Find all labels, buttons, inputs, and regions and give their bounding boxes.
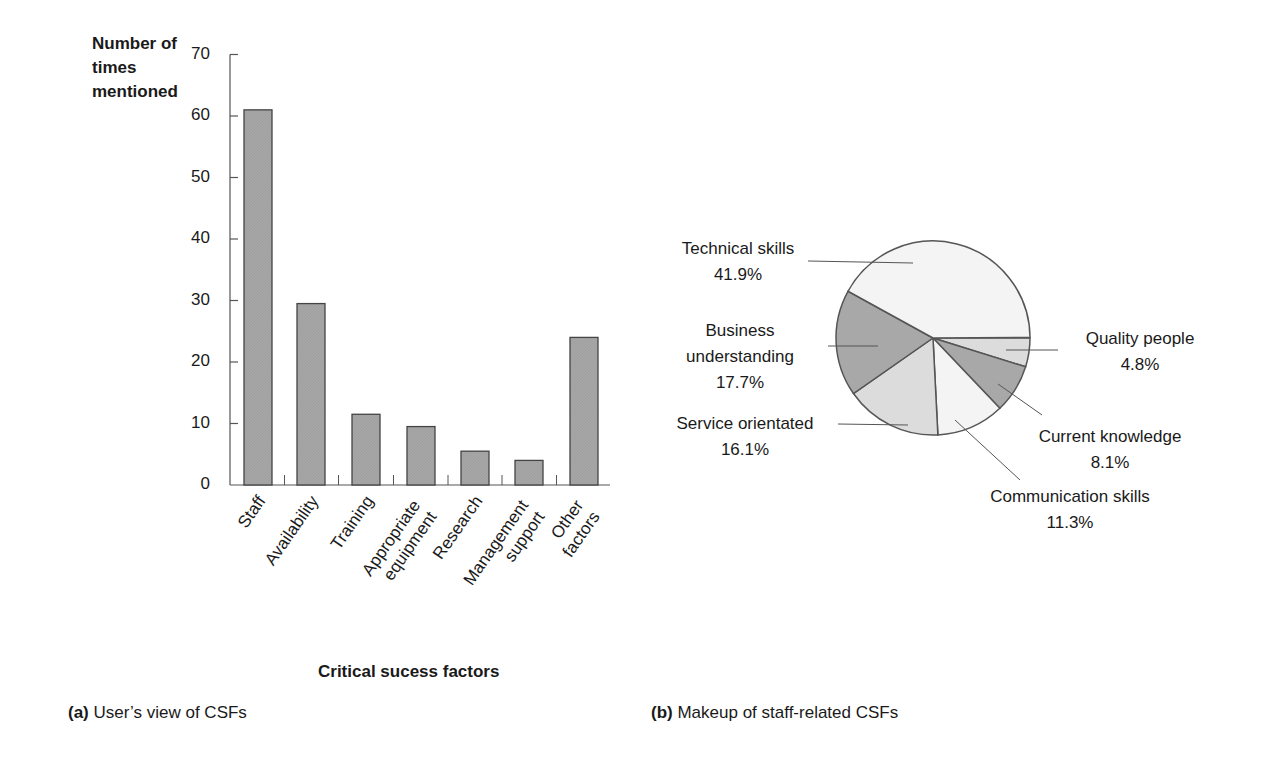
y-tick-label: 60 (170, 105, 210, 125)
pie-label-technical-skills: Technical skills 41.9% (648, 236, 828, 288)
caption-a: (a) User’s view of CSFs (68, 703, 247, 723)
bar-availability (297, 304, 325, 485)
bar-appropriate-equipment (407, 427, 435, 485)
pie-label-quality-people: Quality people 4.8% (1050, 326, 1230, 378)
bar-training (352, 414, 380, 485)
label-name: Communication skills (960, 484, 1180, 510)
label-pct: 41.9% (648, 262, 828, 288)
label-name-2: understanding (650, 344, 830, 370)
bar-research (461, 451, 489, 485)
pie-label-business-understanding: Business understanding 17.7% (650, 318, 830, 396)
y-tick-label: 20 (170, 351, 210, 371)
bar-other-factors (570, 337, 598, 485)
pie-label-service-orientated: Service orientated 16.1% (645, 411, 845, 463)
pie-label-communication-skills: Communication skills 11.3% (960, 484, 1180, 536)
label-pct: 17.7% (650, 370, 830, 396)
y-tick-label: 10 (170, 413, 210, 433)
bar-staff (244, 110, 272, 485)
bar-y-axis-title: Number of times mentioned (92, 32, 178, 104)
bar-management-support (515, 460, 543, 485)
label-name: Quality people (1050, 326, 1230, 352)
label-pct: 11.3% (960, 510, 1180, 536)
caption-b: (b) Makeup of staff-related CSFs (651, 703, 898, 723)
label-pct: 8.1% (1010, 450, 1210, 476)
label-name: Technical skills (648, 236, 828, 262)
y-tick-label: 70 (170, 44, 210, 64)
label-name: Current knowledge (1010, 424, 1210, 450)
y-tick-label: 0 (170, 474, 210, 494)
y-tick-label: 50 (170, 167, 210, 187)
label-pct: 16.1% (645, 437, 845, 463)
caption-b-prefix: (b) (651, 703, 673, 722)
label-name-1: Business (650, 318, 830, 344)
caption-b-text: Makeup of staff-related CSFs (673, 703, 899, 722)
caption-a-text: User’s view of CSFs (89, 703, 247, 722)
y-tick-label: 30 (170, 290, 210, 310)
pie-label-current-knowledge: Current knowledge 8.1% (1010, 424, 1210, 476)
ylabel-line-2: times (92, 56, 178, 80)
label-pct: 4.8% (1050, 352, 1230, 378)
ylabel-line-1: Number of (92, 32, 178, 56)
caption-a-prefix: (a) (68, 703, 89, 722)
y-tick-label: 40 (170, 228, 210, 248)
bar-x-axis-title: Critical sucess factors (318, 662, 499, 682)
ylabel-line-3: mentioned (92, 80, 178, 104)
label-name: Service orientated (645, 411, 845, 437)
